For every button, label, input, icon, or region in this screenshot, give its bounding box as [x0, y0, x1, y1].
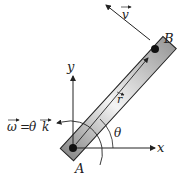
y-axis-label: y — [67, 60, 74, 73]
pin-A — [69, 144, 77, 152]
position-vector-label: r — [117, 94, 122, 105]
point-A-label: A — [75, 162, 84, 175]
x-axis-label: x — [157, 141, 164, 154]
diagram-graphics — [0, 0, 178, 178]
position-vector-r — [76, 58, 148, 144]
rotating-bar-diagram: v B y r θ x A ω = θ̇ k — [0, 0, 178, 178]
omega-symbol: ω — [7, 121, 17, 133]
theta-label: θ — [114, 127, 121, 139]
pin-B — [151, 45, 159, 53]
omega-arrow-icon — [57, 122, 62, 123]
k-unit-vector: k — [42, 121, 49, 133]
velocity-label: v — [122, 9, 129, 21]
point-B-label: B — [164, 32, 174, 45]
theta-dot-symbol: θ̇ — [29, 121, 36, 133]
